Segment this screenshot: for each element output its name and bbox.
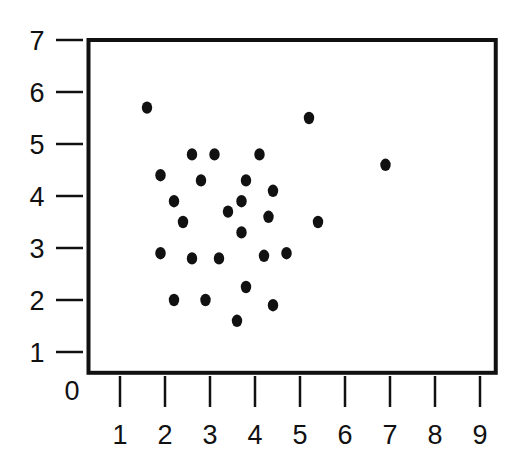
x-tick-label: 1 [112,420,127,450]
y-tick-label: 3 [29,234,44,264]
data-point [281,247,291,259]
data-point [304,112,314,124]
data-point [142,101,152,113]
y-tick-label: 2 [29,286,44,316]
y-tick-label: 6 [29,78,44,108]
x-tick-label: 7 [382,420,397,450]
data-point [236,195,246,207]
plot-frame [89,40,496,373]
data-point [200,294,210,306]
x-tick-label: 4 [247,420,262,450]
data-point [313,216,323,228]
y-axis: 1234567 [29,26,83,368]
data-point [241,281,251,293]
data-point [259,250,269,262]
y-tick-label: 1 [29,338,44,368]
x-axis: 123456789 [112,376,487,450]
data-point [241,174,251,186]
data-point [214,252,224,264]
data-point [232,315,242,327]
data-point [254,148,264,160]
data-point [236,226,246,238]
data-point [187,148,197,160]
data-point [263,211,273,223]
data-point [169,294,179,306]
data-point [223,205,233,217]
scatter-chart: 1234567 123456789 0 [0,0,525,472]
x-tick-label: 8 [427,420,442,450]
data-point [196,174,206,186]
y-tick-label: 4 [29,182,44,212]
data-point [155,169,165,181]
x-tick-label: 6 [337,420,352,450]
data-point [178,216,188,228]
data-points [142,101,391,327]
data-point [268,299,278,311]
data-point [209,148,219,160]
x-tick-label: 2 [157,420,172,450]
data-point [169,195,179,207]
origin-label: 0 [64,376,79,406]
data-point [268,185,278,197]
x-tick-label: 3 [202,420,217,450]
data-point [155,247,165,259]
x-tick-label: 5 [292,420,307,450]
data-point [187,252,197,264]
y-tick-label: 5 [29,130,44,160]
x-tick-label: 9 [472,420,487,450]
data-point [380,159,390,171]
y-tick-label: 7 [29,26,44,56]
